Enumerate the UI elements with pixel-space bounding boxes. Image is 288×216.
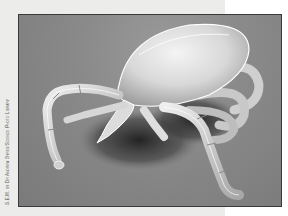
page-background-top xyxy=(0,0,288,14)
tick-illustration xyxy=(19,15,281,206)
photo-credit: S.E.M. by Dr Andrew Syred/Science Photo … xyxy=(5,99,10,205)
tick-micrograph-photo xyxy=(18,14,282,207)
